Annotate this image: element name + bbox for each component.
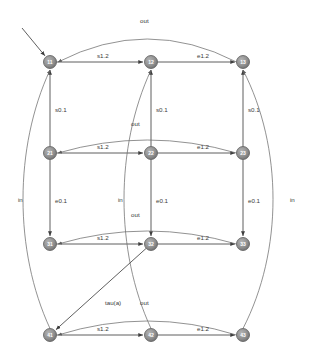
node-label: 22	[148, 150, 154, 156]
graph-node[interactable]: 33	[237, 238, 250, 251]
edge-label: out	[140, 17, 149, 24]
node-label: 13	[240, 59, 246, 65]
node-label: 12	[148, 59, 154, 65]
edge-label: s1.2	[97, 143, 109, 150]
graph-node[interactable]: 13	[237, 56, 250, 69]
initial-state-arrow	[22, 28, 45, 56]
graph-node[interactable]: 41	[44, 329, 57, 342]
state-graph: 111213212223313233414243 s1.2e1.2s1.2e1.…	[0, 0, 310, 359]
graph-node[interactable]: 21	[44, 147, 57, 160]
node-label: 33	[240, 241, 246, 247]
edge-label: e1.2	[197, 143, 210, 150]
graph-node[interactable]: 11	[44, 56, 57, 69]
edge-label: s0.1	[156, 106, 168, 113]
graph-edge	[23, 70, 50, 329]
edge-label: tau(a)	[105, 299, 121, 306]
edge-label: s0.1	[55, 106, 67, 113]
node-label: 23	[240, 150, 246, 156]
graph-node[interactable]: 12	[145, 56, 158, 69]
edge-label: e1.2	[197, 234, 210, 241]
node-label: 32	[148, 241, 154, 247]
node-label: 41	[47, 332, 53, 338]
edge-label: out	[131, 120, 140, 127]
diagram-canvas: 111213212223313233414243 s1.2e1.2s1.2e1.…	[0, 0, 310, 359]
node-label: 11	[47, 59, 53, 65]
node-label: 43	[240, 332, 246, 338]
edge-label: s1.2	[97, 325, 109, 332]
graph-node[interactable]: 23	[237, 147, 250, 160]
graph-node[interactable]: 43	[237, 329, 250, 342]
edge-label: s1.2	[97, 52, 109, 59]
node-label: 31	[47, 241, 53, 247]
graph-edge	[56, 248, 146, 329]
edge-label: out	[140, 299, 149, 306]
node-label: 21	[47, 150, 53, 156]
edge-label: s0.1	[248, 106, 260, 113]
edge-label: in	[290, 196, 295, 203]
edge-label: s1.2	[97, 234, 109, 241]
edge-label: in	[18, 196, 23, 203]
edge-label: e0.1	[248, 197, 261, 204]
graph-edge	[124, 70, 151, 329]
graph-node[interactable]: 42	[145, 329, 158, 342]
edge-label: e0.1	[55, 197, 68, 204]
graph-node[interactable]: 31	[44, 238, 57, 251]
edges-layer	[22, 28, 273, 335]
edge-label: e1.2	[197, 325, 210, 332]
node-label: 42	[148, 332, 154, 338]
edge-label: in	[118, 196, 123, 203]
edge-label: e1.2	[197, 52, 210, 59]
graph-node[interactable]: 32	[145, 238, 158, 251]
edge-label: e0.1	[156, 197, 169, 204]
edge-label: out	[131, 211, 140, 218]
graph-node[interactable]: 22	[145, 147, 158, 160]
